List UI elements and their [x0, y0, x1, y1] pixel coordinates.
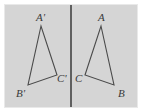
figure-drawing: A' B' C' A B C: [0, 0, 142, 112]
triangle-image: [28, 26, 57, 85]
geometry-figure: A' B' C' A B C: [0, 0, 142, 112]
vertex-label-a-prime: A': [35, 11, 46, 23]
vertex-label-c-prime: C': [57, 72, 67, 84]
vertex-label-c: C: [75, 72, 83, 84]
triangle-preimage: [85, 26, 114, 85]
vertex-label-b: B: [118, 87, 125, 99]
vertex-label-a: A: [97, 11, 105, 23]
vertex-label-b-prime: B': [16, 87, 26, 99]
